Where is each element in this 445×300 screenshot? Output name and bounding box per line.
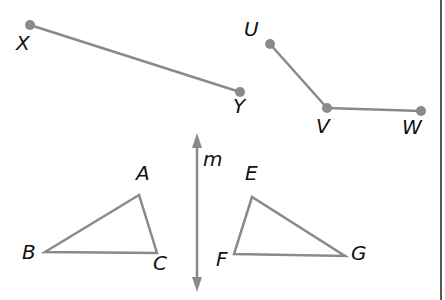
label-y: Y — [233, 94, 247, 118]
label-m: m — [203, 147, 222, 171]
point-x — [25, 20, 35, 30]
point-u — [265, 39, 275, 49]
label-v: V — [316, 114, 331, 138]
triangle-abc: A B C — [22, 161, 167, 275]
label-f: F — [216, 247, 228, 271]
label-u: U — [244, 17, 259, 41]
label-x: X — [15, 31, 31, 55]
segment-xy: X Y — [15, 20, 247, 118]
label-g: G — [351, 241, 367, 265]
label-w: W — [402, 115, 423, 139]
arrow-up-icon — [192, 133, 202, 148]
label-b: B — [22, 240, 36, 264]
arrow-down-icon — [192, 277, 202, 292]
label-e: E — [245, 161, 258, 185]
angle-uvw: U V W — [244, 17, 426, 139]
geometry-diagram: X Y U V W A B C m E F G — [0, 0, 445, 300]
label-a: A — [134, 161, 150, 185]
triangle-efg: E F G — [216, 161, 367, 271]
point-v — [322, 103, 332, 113]
label-c: C — [153, 251, 167, 275]
